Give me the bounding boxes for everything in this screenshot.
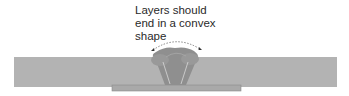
annotation-line-3: shape: [135, 30, 216, 43]
annotation-line-2: end in a convex: [135, 17, 216, 30]
arrow-right-icon: [199, 47, 203, 50]
arrow-left-icon: [151, 48, 155, 51]
annotation-line-1: Layers should: [135, 4, 216, 17]
backing-strip: [112, 85, 241, 91]
annotation-text: Layers should end in a convex shape: [135, 4, 216, 43]
